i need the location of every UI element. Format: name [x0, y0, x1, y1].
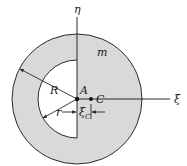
- origin-point-label: A: [79, 84, 88, 97]
- offset-label-subscript: C: [85, 113, 91, 121]
- annulus-diagram: η ξ m R r A C ξ C: [0, 0, 187, 166]
- outer-radius-label: R: [49, 84, 58, 97]
- eta-axis-label: η: [74, 3, 81, 16]
- mass-label: m: [97, 46, 107, 59]
- centroid-point-c: [89, 97, 93, 101]
- centroid-point-label: C: [96, 93, 105, 106]
- origin-point-a: [75, 97, 79, 101]
- xi-axis-label: ξ: [174, 93, 181, 106]
- inner-radius-label: r: [56, 106, 62, 119]
